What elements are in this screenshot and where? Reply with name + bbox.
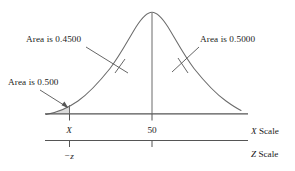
annotation-area-left-body: Area is 0.4500 [26,35,81,44]
z-scale-label: Z Scale [251,150,278,159]
normal-curve-path [46,12,241,114]
leader-line-area-right [172,47,199,72]
z-axis-tick-label-negz: −z [59,152,79,161]
x-scale-label: X Scale [251,127,279,136]
arrowhead-area-left [62,101,69,108]
x-scale-label-text: Scale [257,126,279,136]
z-scale-label-text: Scale [256,149,278,159]
x-axis-tick-label-mean: 50 [141,126,163,135]
annotation-area-right-half: Area is 0.5000 [200,35,255,44]
normal-curve-figure: Area is 0.500 Area is 0.4500 Area is 0.5… [0,0,295,171]
x-axis-tick-label-x: X [59,126,79,135]
annotation-area-left-tail: Area is 0.500 [8,78,59,87]
